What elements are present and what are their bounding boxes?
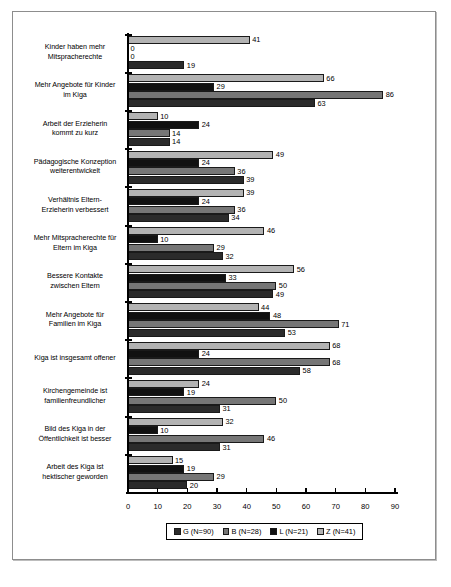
bar-z-3 (128, 151, 273, 159)
bar-b-10 (128, 435, 264, 443)
bar-l-10 (128, 426, 158, 434)
x-axis-tick-label: 60 (302, 502, 310, 511)
bar-value-label: 24 (202, 380, 210, 388)
bar-value-label: 49 (276, 291, 284, 299)
legend-label: G (N=90) (183, 527, 214, 536)
bar-value-label: 39 (246, 189, 254, 197)
bar-z-1 (128, 74, 324, 82)
x-axis-tick (246, 488, 248, 494)
bar-value-label: 39 (246, 176, 254, 184)
bar-l-7 (128, 312, 270, 320)
x-axis-tick-label: 40 (242, 502, 250, 511)
legend-item-l: L (N=21) (270, 527, 308, 536)
bar-value-label: 24 (202, 159, 210, 167)
bar-g-0 (128, 61, 184, 69)
bar-value-label: 29 (217, 244, 225, 252)
bar-value-label: 66 (326, 75, 334, 83)
bar-value-label: 31 (222, 444, 230, 452)
bar-value-label: 10 (160, 427, 168, 435)
bar-g-1 (128, 99, 315, 107)
bar-l-2 (128, 121, 199, 129)
bar-value-label: 46 (267, 227, 275, 235)
bar-l-3 (128, 159, 199, 167)
bar-b-1 (128, 91, 383, 99)
y-axis-line (127, 33, 129, 494)
bar-value-label: 86 (386, 91, 394, 99)
bar-value-label: 32 (225, 253, 233, 261)
x-axis-tick (127, 488, 129, 494)
bar-z-8 (128, 342, 330, 350)
bar-value-label: 46 (267, 435, 275, 443)
bar-value-label: 44 (261, 304, 269, 312)
bar-z-2 (128, 112, 158, 120)
bar-g-3 (128, 176, 244, 184)
x-axis-tick-label: 30 (213, 502, 221, 511)
bar-b-11 (128, 473, 214, 481)
chart-frame: Kinder haben mehrMitspracherechteMehr An… (12, 11, 436, 560)
bar-z-4 (128, 189, 244, 197)
legend-item-g: G (N=90) (174, 527, 214, 536)
bar-z-9 (128, 380, 199, 388)
bar-value-label: 34 (231, 214, 239, 222)
bar-value-label: 32 (225, 418, 233, 426)
x-axis-tick-label: 10 (153, 502, 161, 511)
bar-value-label: 56 (297, 266, 305, 274)
bar-z-11 (128, 456, 173, 464)
bar-z-6 (128, 265, 294, 273)
bar-value-label: 49 (276, 151, 284, 159)
x-axis-tick (394, 488, 396, 494)
x-axis-tick-label: 50 (272, 502, 280, 511)
bar-value-label: 58 (303, 367, 311, 375)
legend-item-z: Z (N=41) (317, 527, 355, 536)
bar-value-label: 71 (341, 321, 349, 329)
x-axis-tick (335, 488, 337, 494)
bar-value-label: 14 (172, 138, 180, 146)
x-axis-tick (365, 488, 367, 494)
bar-value-label: 19 (187, 465, 195, 473)
bar-value-label: 48 (273, 312, 281, 320)
bars-layer: 4100196629866310241414492436393924363446… (13, 12, 435, 559)
bar-g-7 (128, 329, 285, 337)
bar-value-label: 68 (332, 342, 340, 350)
bar-b-8 (128, 358, 330, 366)
bar-value-label: 68 (332, 359, 340, 367)
bar-value-label: 19 (187, 389, 195, 397)
x-axis-tick-label: 20 (183, 502, 191, 511)
bar-g-9 (128, 405, 220, 413)
legend-swatch-icon (223, 528, 230, 535)
bar-value-label: 31 (222, 405, 230, 413)
bar-b-3 (128, 167, 235, 175)
bar-g-5 (128, 252, 223, 260)
bar-value-label: 53 (288, 329, 296, 337)
x-axis-tick (305, 488, 307, 494)
bar-value-label: 15 (175, 457, 183, 465)
bar-l-8 (128, 350, 199, 358)
bar-z-5 (128, 227, 264, 235)
bar-value-label: 36 (237, 168, 245, 176)
bar-b-7 (128, 320, 339, 328)
bar-g-6 (128, 290, 273, 298)
bar-b-9 (128, 397, 276, 405)
bar-l-9 (128, 388, 184, 396)
bar-value-label: 29 (217, 83, 225, 91)
bar-g-2 (128, 138, 170, 146)
plot-area: Kinder haben mehrMitspracherechteMehr An… (13, 12, 435, 559)
bar-b-6 (128, 282, 276, 290)
bar-l-1 (128, 83, 214, 91)
bar-value-label: 10 (160, 113, 168, 121)
bar-g-10 (128, 443, 220, 451)
x-axis-tick-label: 90 (391, 502, 399, 511)
bar-value-label: 33 (228, 274, 236, 282)
legend-swatch-icon (270, 528, 277, 535)
bar-z-7 (128, 303, 259, 311)
bar-value-label: 20 (190, 482, 198, 490)
bar-value-label: 50 (279, 397, 287, 405)
bar-z-0 (128, 36, 250, 44)
bar-value-label: 63 (317, 100, 325, 108)
bar-l-6 (128, 274, 226, 282)
bar-b-4 (128, 206, 235, 214)
bar-l-11 (128, 465, 184, 473)
bar-g-4 (128, 214, 229, 222)
bar-g-8 (128, 367, 300, 375)
x-axis-tick-label: 80 (361, 502, 369, 511)
